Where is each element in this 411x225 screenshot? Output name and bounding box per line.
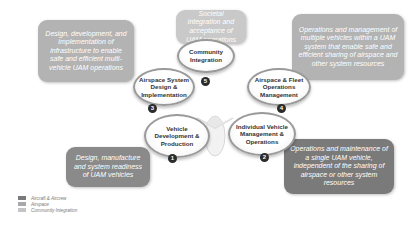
node-vehicle-development: Vehicle Development & Production — [144, 114, 210, 158]
node-label: Airspace System Design & Implementation — [137, 76, 191, 99]
description-text: Operations and management of multiple ve… — [298, 26, 398, 69]
node-number-3: 3 — [148, 104, 157, 113]
legend-swatch — [18, 196, 26, 201]
legend: Aircraft & Aircrew Airspace Community In… — [18, 195, 77, 213]
legend-swatch — [18, 208, 26, 213]
node-number-1: 1 — [168, 154, 177, 163]
legend-label: Aircraft & Aircrew — [31, 196, 66, 201]
node-individual-vehicle-management: Individual Vehicle Management & Operatio… — [228, 112, 296, 156]
node-label: Individual Vehicle Management & Operatio… — [232, 123, 292, 146]
description-box-airspace-design: Design, development, and implementation … — [38, 20, 134, 82]
node-number-2: 2 — [260, 153, 269, 162]
node-label: Community Integration — [181, 48, 231, 63]
node-airspace-fleet-operations: Airspace & Fleet Operations Management — [247, 68, 311, 106]
description-box-fleet-operations: Operations and management of multiple ve… — [292, 14, 404, 80]
node-number-5: 5 — [201, 77, 210, 86]
description-text: Design, manufacture and system readiness… — [72, 154, 144, 180]
node-label: Vehicle Development & Production — [148, 125, 206, 148]
legend-swatch — [18, 202, 26, 207]
description-text: Design, development, and implementation … — [44, 30, 128, 73]
legend-label: Community Integration — [31, 208, 77, 213]
description-text: Operations and maintenance of a single U… — [290, 145, 388, 188]
description-box-vehicle-operations: Operations and maintenance of a single U… — [284, 139, 394, 194]
legend-item: Community Integration — [18, 207, 77, 213]
legend-label: Airspace — [31, 202, 49, 207]
description-box-vehicle-development: Design, manufacture and system readiness… — [66, 147, 150, 187]
node-number-4: 4 — [277, 104, 286, 113]
node-community-integration: Community Integration — [177, 39, 235, 73]
node-label: Airspace & Fleet Operations Management — [251, 76, 307, 99]
node-airspace-system-design: Airspace System Design & Implementation — [133, 68, 195, 106]
